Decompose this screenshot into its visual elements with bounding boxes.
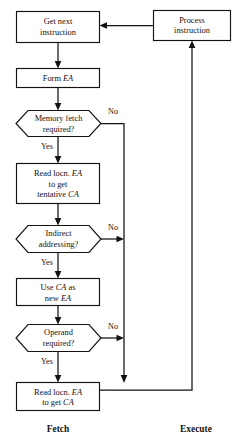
text-run-2: as	[66, 283, 75, 292]
read-tentative-line-1: Read locn. EA	[34, 169, 83, 178]
phase-label-fetch: Fetch	[47, 424, 70, 434]
text-run-1: EA	[62, 73, 74, 82]
flowchart-page: Get next instruction Process instruction…	[0, 0, 239, 448]
read-tentative-line-3: tentative CA	[37, 190, 80, 199]
indirect-addressing-line-1: Indirect	[45, 229, 72, 238]
text-run-0: tentative	[37, 190, 68, 199]
indirect-yes-label: Yes	[41, 258, 53, 267]
use-ca-line-1: Use CA as	[41, 283, 76, 292]
text-run-1: EA	[60, 293, 72, 302]
connector-use-ca-to-operand	[55, 306, 62, 325]
use-ca-line-2: new EA	[45, 293, 72, 302]
operand-required-line-1: Operand	[44, 328, 74, 337]
connector-get-next-to-form-ea	[55, 43, 62, 69]
node-read-locn-get-ca: Read locn. EA to get CA	[17, 383, 100, 411]
memory-fetch-no-label: No	[108, 107, 118, 116]
connector-operand-no	[101, 335, 124, 342]
text-run-0: Form	[43, 73, 63, 82]
process-instruction-line-1: Process	[179, 16, 205, 25]
text-run-0: Use	[41, 283, 56, 292]
memory-fetch-line-1: Memory fetch	[35, 114, 83, 123]
text-run-1: EA	[71, 169, 83, 178]
operand-required-line-2: required?	[43, 339, 75, 348]
get-next-instruction-line-1: Get next	[44, 17, 73, 26]
indirect-addressing-line-2: addressing?	[39, 240, 79, 249]
text-run-0: Read locn.	[34, 169, 72, 178]
node-operand-required: Operand required?	[16, 325, 101, 352]
memory-fetch-yes-label: Yes	[41, 142, 53, 151]
node-read-locn-tentative-ca: Read locn. EA to get tentative CA	[17, 164, 100, 204]
connector-process-to-get-next	[100, 22, 154, 29]
read-tentative-line-2: to get	[49, 179, 69, 188]
text-run-0: to get	[49, 179, 69, 188]
read-get-ca-line-2: to get CA	[42, 398, 75, 407]
node-indirect-addressing: Indirect addressing?	[16, 226, 101, 253]
text-run-1: EA	[71, 387, 83, 396]
node-use-ca-as-new-ea: Use CA as new EA	[17, 279, 100, 306]
connector-memory-fetch-yes-to-read-tentative	[55, 137, 62, 164]
instruction-cycle-flowchart: Get next instruction Process instruction…	[0, 0, 239, 448]
form-ea-label: Form EA	[43, 73, 74, 82]
read-get-ca-line-1: Read locn. EA	[34, 387, 83, 396]
indirect-no-label: No	[108, 223, 118, 232]
operand-yes-label: Yes	[41, 357, 53, 366]
phase-label-execute: Execute	[180, 424, 212, 434]
connector-operand-yes-to-read-ca	[55, 352, 62, 383]
node-process-instruction: Process instruction	[154, 11, 231, 41]
text-run-0: to get	[42, 398, 63, 407]
operand-no-label: No	[108, 322, 118, 331]
connector-indirect-yes-to-use-ca	[55, 253, 62, 279]
text-run-0: new	[45, 293, 61, 302]
text-run-0: Read locn.	[34, 387, 72, 396]
text-run-1: CA	[68, 190, 80, 199]
node-form-ea: Form EA	[17, 69, 100, 88]
memory-fetch-line-2: required?	[43, 125, 75, 134]
connector-form-ea-to-memory-fetch	[55, 88, 62, 111]
process-instruction-line-2: instruction	[174, 26, 211, 35]
connector-memory-fetch-no	[101, 124, 127, 384]
node-memory-fetch-required: Memory fetch required?	[16, 111, 101, 137]
get-next-instruction-line-2: instruction	[40, 28, 77, 37]
connector-indirect-no	[101, 236, 124, 243]
node-get-next-instruction: Get next instruction	[17, 12, 100, 43]
connector-read-tentative-to-indirect	[55, 204, 62, 226]
text-run-1: CA	[63, 398, 75, 407]
